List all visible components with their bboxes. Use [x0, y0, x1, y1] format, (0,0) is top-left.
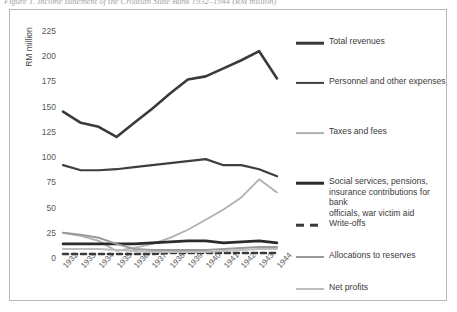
legend-swatch-icon [296, 220, 324, 230]
x-tick-1939: 1939 [186, 251, 205, 270]
legend-item-3: Social services, pensions, insurance con… [296, 176, 446, 218]
x-tick-1940: 1940 [204, 251, 223, 270]
x-tick-1943: 1943 [257, 251, 276, 270]
x-axis-tick-labels: 1932193319341935193619371938193919401941… [0, 0, 457, 312]
legend-swatch-icon [296, 252, 324, 262]
x-tick-1937: 1937 [150, 251, 169, 270]
legend-label: Total revenues [329, 36, 385, 47]
x-tick-1938: 1938 [168, 251, 187, 270]
x-tick-1934: 1934 [97, 251, 116, 270]
x-tick-1942: 1942 [239, 251, 258, 270]
x-tick-1933: 1933 [79, 251, 98, 270]
legend-label: Personnel and other expenses [329, 76, 446, 87]
legend-item-2: Taxes and fees [296, 126, 387, 138]
x-tick-1941: 1941 [222, 251, 241, 270]
x-tick-1935: 1935 [115, 251, 134, 270]
legend-item-5: Allocations to reserves [296, 250, 415, 262]
legend-item-1: Personnel and other expenses [296, 76, 446, 88]
legend-label: Allocations to reserves [329, 250, 415, 261]
x-tick-1932: 1932 [61, 251, 80, 270]
legend-item-0: Total revenues [296, 36, 385, 48]
legend-label: Taxes and fees [329, 126, 387, 137]
legend-item-6: Net profits [296, 282, 368, 294]
legend-swatch-icon [296, 178, 324, 188]
x-tick-1936: 1936 [132, 251, 151, 270]
legend-swatch-icon [296, 284, 324, 294]
x-tick-1944: 1944 [275, 251, 294, 270]
legend-item-4: Write-offs [296, 218, 365, 230]
legend-swatch-icon [296, 128, 324, 138]
legend-swatch-icon [296, 78, 324, 88]
legend-label: Net profits [329, 282, 368, 293]
legend-swatch-icon [296, 38, 324, 48]
legend-label: Write-offs [329, 218, 365, 229]
legend-label: Social services, pensions, insurance con… [329, 176, 446, 218]
